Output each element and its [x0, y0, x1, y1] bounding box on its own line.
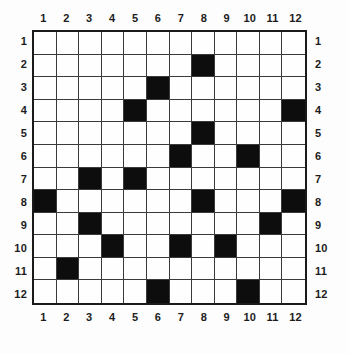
grid-cell-r6-c3[interactable] [79, 145, 102, 168]
grid-cell-r4-c7[interactable] [170, 100, 193, 123]
grid-cell-r5-c6[interactable] [147, 122, 170, 145]
grid-cell-r12-c9[interactable] [215, 280, 238, 303]
grid-cell-r10-c7[interactable] [170, 235, 193, 258]
grid-cell-r9-c9[interactable] [215, 213, 238, 236]
grid-cell-r12-c4[interactable] [102, 280, 125, 303]
grid-cell-r8-c1[interactable] [34, 190, 57, 213]
grid-cell-r8-c2[interactable] [57, 190, 80, 213]
grid-cell-r2-c1[interactable] [34, 55, 57, 78]
grid-cell-r3-c12[interactable] [282, 77, 305, 100]
grid-cell-r4-c11[interactable] [260, 100, 283, 123]
grid-cell-r12-c8[interactable] [192, 280, 215, 303]
grid-cell-r10-c10[interactable] [237, 235, 260, 258]
grid-cell-r9-c12[interactable] [282, 213, 305, 236]
grid-cell-r5-c2[interactable] [57, 122, 80, 145]
grid-cell-r4-c4[interactable] [102, 100, 125, 123]
grid-cell-r12-c5[interactable] [124, 280, 147, 303]
grid-cell-r3-c5[interactable] [124, 77, 147, 100]
grid-cell-r6-c8[interactable] [192, 145, 215, 168]
grid-cell-r5-c5[interactable] [124, 122, 147, 145]
grid-cell-r3-c3[interactable] [79, 77, 102, 100]
grid-cell-r1-c3[interactable] [79, 32, 102, 55]
grid-cell-r7-c3[interactable] [79, 168, 102, 191]
grid-cell-r2-c12[interactable] [282, 55, 305, 78]
grid-cell-r8-c5[interactable] [124, 190, 147, 213]
grid-cell-r3-c10[interactable] [237, 77, 260, 100]
grid-cell-r11-c11[interactable] [260, 258, 283, 281]
grid-cell-r9-c11[interactable] [260, 213, 283, 236]
grid-cell-r3-c9[interactable] [215, 77, 238, 100]
grid-cell-r4-c10[interactable] [237, 100, 260, 123]
grid-cell-r8-c4[interactable] [102, 190, 125, 213]
grid-cell-r1-c7[interactable] [170, 32, 193, 55]
grid-cell-r2-c4[interactable] [102, 55, 125, 78]
grid-cell-r2-c9[interactable] [215, 55, 238, 78]
grid-cell-r6-c7[interactable] [170, 145, 193, 168]
grid-cell-r5-c8[interactable] [192, 122, 215, 145]
grid-cell-r11-c2[interactable] [57, 258, 80, 281]
grid-cell-r7-c7[interactable] [170, 168, 193, 191]
grid-cell-r7-c4[interactable] [102, 168, 125, 191]
grid-cell-r10-c2[interactable] [57, 235, 80, 258]
grid-cell-r5-c11[interactable] [260, 122, 283, 145]
grid-cell-r7-c9[interactable] [215, 168, 238, 191]
grid-cell-r6-c5[interactable] [124, 145, 147, 168]
grid-cell-r1-c6[interactable] [147, 32, 170, 55]
grid-cell-r2-c10[interactable] [237, 55, 260, 78]
grid-cell-r8-c12[interactable] [282, 190, 305, 213]
grid-cell-r5-c9[interactable] [215, 122, 238, 145]
grid-cell-r10-c12[interactable] [282, 235, 305, 258]
grid-cell-r5-c7[interactable] [170, 122, 193, 145]
grid-cell-r11-c4[interactable] [102, 258, 125, 281]
grid-cell-r7-c5[interactable] [124, 168, 147, 191]
grid-cell-r11-c7[interactable] [170, 258, 193, 281]
grid-cell-r2-c6[interactable] [147, 55, 170, 78]
grid-cell-r5-c10[interactable] [237, 122, 260, 145]
grid-cell-r6-c2[interactable] [57, 145, 80, 168]
grid-cell-r1-c1[interactable] [34, 32, 57, 55]
grid-cell-r3-c1[interactable] [34, 77, 57, 100]
grid-cell-r4-c9[interactable] [215, 100, 238, 123]
grid-cell-r4-c12[interactable] [282, 100, 305, 123]
grid-cell-r6-c6[interactable] [147, 145, 170, 168]
grid-cell-r1-c8[interactable] [192, 32, 215, 55]
grid-cell-r8-c10[interactable] [237, 190, 260, 213]
grid-cell-r1-c4[interactable] [102, 32, 125, 55]
grid-cell-r7-c10[interactable] [237, 168, 260, 191]
grid-cell-r1-c12[interactable] [282, 32, 305, 55]
grid-cell-r8-c8[interactable] [192, 190, 215, 213]
grid-cell-r9-c8[interactable] [192, 213, 215, 236]
grid-cell-r11-c9[interactable] [215, 258, 238, 281]
grid-cell-r10-c3[interactable] [79, 235, 102, 258]
puzzle-grid[interactable] [34, 32, 305, 303]
grid-cell-r2-c11[interactable] [260, 55, 283, 78]
grid-cell-r9-c6[interactable] [147, 213, 170, 236]
grid-cell-r7-c1[interactable] [34, 168, 57, 191]
grid-cell-r10-c5[interactable] [124, 235, 147, 258]
grid-cell-r7-c8[interactable] [192, 168, 215, 191]
grid-cell-r6-c9[interactable] [215, 145, 238, 168]
grid-cell-r10-c9[interactable] [215, 235, 238, 258]
grid-cell-r11-c8[interactable] [192, 258, 215, 281]
grid-cell-r6-c11[interactable] [260, 145, 283, 168]
grid-cell-r9-c5[interactable] [124, 213, 147, 236]
grid-cell-r1-c2[interactable] [57, 32, 80, 55]
grid-cell-r12-c1[interactable] [34, 280, 57, 303]
grid-cell-r4-c1[interactable] [34, 100, 57, 123]
grid-cell-r7-c2[interactable] [57, 168, 80, 191]
grid-cell-r5-c4[interactable] [102, 122, 125, 145]
grid-cell-r10-c4[interactable] [102, 235, 125, 258]
grid-cell-r2-c8[interactable] [192, 55, 215, 78]
grid-cell-r7-c6[interactable] [147, 168, 170, 191]
grid-cell-r4-c5[interactable] [124, 100, 147, 123]
grid-cell-r3-c6[interactable] [147, 77, 170, 100]
grid-cell-r2-c2[interactable] [57, 55, 80, 78]
grid-cell-r11-c10[interactable] [237, 258, 260, 281]
grid-cell-r5-c1[interactable] [34, 122, 57, 145]
grid-cell-r9-c7[interactable] [170, 213, 193, 236]
grid-cell-r9-c10[interactable] [237, 213, 260, 236]
grid-cell-r9-c2[interactable] [57, 213, 80, 236]
grid-cell-r6-c12[interactable] [282, 145, 305, 168]
grid-cell-r7-c12[interactable] [282, 168, 305, 191]
grid-cell-r4-c6[interactable] [147, 100, 170, 123]
